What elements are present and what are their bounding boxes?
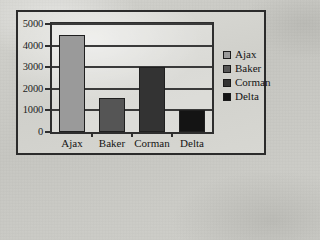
y-axis-tick — [45, 66, 50, 68]
y-axis-tick-label: 2000 — [18, 84, 43, 95]
x-axis-tick — [171, 133, 173, 137]
legend-label: Delta — [235, 91, 259, 102]
y-axis-tick — [45, 45, 50, 47]
legend-label: Corman — [235, 77, 270, 88]
x-axis-tick — [91, 133, 93, 137]
bar-baker — [99, 98, 125, 132]
y-axis-tick — [45, 109, 50, 111]
y-axis-tick — [45, 23, 50, 25]
chart-frame: 010002000300040005000 AjaxBakerCormanDel… — [16, 10, 266, 155]
x-axis-tick — [131, 133, 133, 137]
legend-swatch-delta — [223, 93, 231, 101]
legend-label: Ajax — [235, 49, 256, 60]
bar-ajax — [59, 35, 85, 132]
y-axis-tick — [45, 131, 50, 133]
bar-delta — [179, 110, 205, 132]
chart-legend: AjaxBakerCormanDelta — [223, 48, 281, 104]
legend-swatch-corman — [223, 79, 231, 87]
gridline — [52, 23, 212, 25]
y-axis-tick-label: 1000 — [18, 105, 43, 116]
x-axis-label-delta: Delta — [162, 138, 222, 149]
legend-swatch-baker — [223, 65, 231, 73]
legend-swatch-ajax — [223, 51, 231, 59]
y-axis-tick-label: 5000 — [18, 19, 43, 30]
y-axis-tick-label: 0 — [18, 127, 43, 138]
legend-label: Baker — [235, 63, 261, 74]
bar-corman — [139, 67, 165, 132]
y-axis-tick-label: 3000 — [18, 62, 43, 73]
legend-item-ajax: Ajax — [223, 48, 281, 61]
y-axis-tick-label: 4000 — [18, 41, 43, 52]
y-axis-tick — [45, 88, 50, 90]
legend-item-corman: Corman — [223, 76, 281, 89]
legend-item-baker: Baker — [223, 62, 281, 75]
legend-item-delta: Delta — [223, 90, 281, 103]
plot-area — [50, 22, 214, 134]
